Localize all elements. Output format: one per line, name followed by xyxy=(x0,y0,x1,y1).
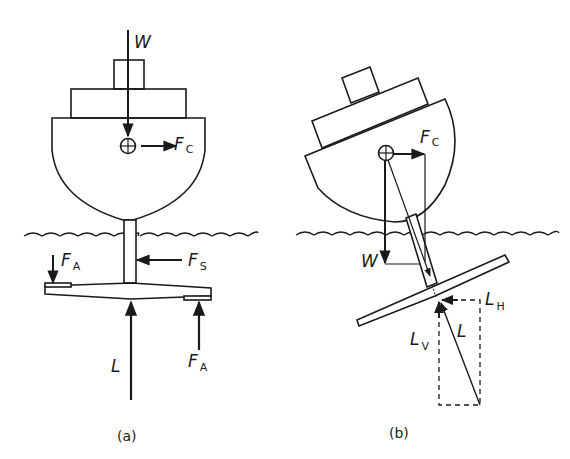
caption-a: (a) xyxy=(117,428,137,444)
hydrofoil-force-diagram: W FC FA FS L FA (a) xyxy=(0,0,570,459)
water-surface-b xyxy=(296,231,559,235)
strut-tilted xyxy=(406,214,437,287)
label-lift-b: L xyxy=(457,321,466,341)
label-side-force-a: FS xyxy=(188,250,207,273)
center-of-gravity-marker-b xyxy=(379,146,394,161)
label-lift-a: L xyxy=(111,356,120,376)
label-centrifugal-b: FC xyxy=(420,127,440,149)
label-lift-vertical-b: LV xyxy=(410,329,429,353)
caption-b: (b) xyxy=(389,425,409,441)
resultant-line xyxy=(388,160,430,276)
label-aileron-left-a: FA xyxy=(61,250,81,273)
label-lift-horizontal-b: LH xyxy=(485,289,505,313)
center-of-gravity-marker xyxy=(121,139,136,154)
panel-a xyxy=(24,30,258,400)
label-weight-b: W xyxy=(361,251,379,271)
lift-arrow-b xyxy=(441,303,480,405)
water-surface xyxy=(24,232,258,236)
label-aileron-right-a: FA xyxy=(188,351,208,374)
label-centrifugal-a: FC xyxy=(174,134,194,156)
panel-b xyxy=(296,67,559,405)
aileron-right xyxy=(184,296,211,300)
funnel-tilted xyxy=(342,67,379,103)
hull-tilted xyxy=(305,99,455,222)
strut xyxy=(124,220,136,283)
aileron-left xyxy=(45,283,71,287)
label-weight-a: W xyxy=(134,32,152,52)
